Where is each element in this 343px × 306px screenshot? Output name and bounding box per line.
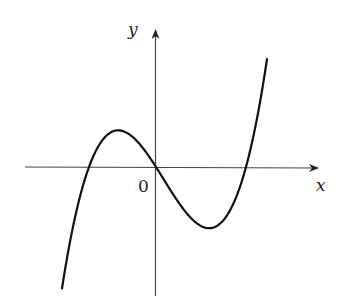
x-axis-label: x bbox=[316, 175, 326, 195]
y-axis-label: y bbox=[127, 19, 138, 39]
x-axis bbox=[25, 167, 318, 168]
cubic-graph: y x 0 bbox=[0, 0, 343, 306]
origin-label: 0 bbox=[138, 176, 149, 196]
cubic-curve bbox=[62, 59, 267, 288]
